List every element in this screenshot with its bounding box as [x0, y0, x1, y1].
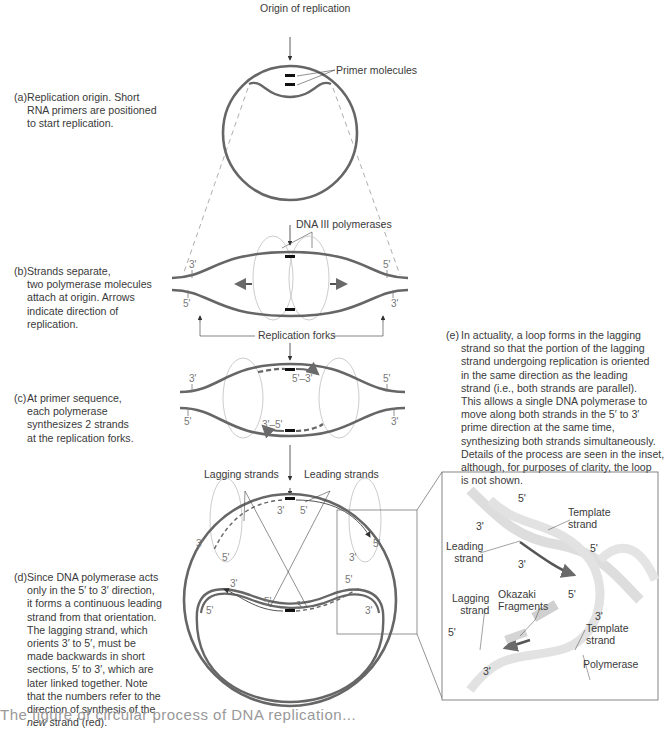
inset-label: 5' [568, 588, 576, 600]
caption-e: (e) In actuality, a loop forms in the la… [446, 329, 666, 487]
strand-end-label: 3' [296, 600, 303, 611]
template-strand-label: Template strand [586, 622, 629, 646]
strand-end-label: 3' [189, 259, 196, 270]
inset-label: 3' [518, 558, 526, 570]
inset-label: 5' [448, 626, 456, 638]
stage-b-strands [172, 225, 408, 336]
strand-end-label: 5' [383, 259, 390, 270]
strand-end-label: 5' [206, 605, 213, 616]
caption-e-label: (e) [446, 329, 459, 342]
strand-end-label: 3' [391, 298, 398, 309]
inset-label: 3' [595, 610, 603, 622]
primer-molecules-label: Primer molecules [336, 64, 417, 76]
replication-forks-label: Replication forks [258, 329, 336, 341]
leading-strands-label: Leading strands [304, 468, 379, 480]
lagging-strand-label: Lagging strand [452, 592, 489, 616]
caption-b: (b) Strands separate, two polymerase mol… [14, 265, 184, 331]
synthesis-direction-label: 5'–3' [292, 373, 313, 384]
caption-e-text: In actuality, a loop forms in the laggin… [461, 329, 666, 487]
dna-polymerases-label: DNA III polymerases [296, 218, 392, 230]
strand-end-label: 3' [230, 578, 237, 589]
strand-end-label: 3' [196, 538, 203, 549]
caption-d-label: (d) [14, 571, 27, 584]
caption-a: (a) Replication origin. Short RNA primer… [14, 91, 184, 131]
cut-off-caption: The figure of circular process of DNA re… [0, 706, 356, 723]
inset-label: 3' [483, 665, 491, 677]
strand-end-label: 3' [189, 373, 196, 384]
caption-b-label: (b) [14, 265, 27, 278]
strand-end-label: 5' [373, 538, 380, 549]
caption-c-label: (c) [14, 392, 26, 405]
inset-label: 5' [518, 492, 526, 504]
strand-end-label: 3' [277, 505, 284, 516]
leading-strand-label: Leading strand [446, 540, 483, 564]
strand-end-label: 5' [345, 574, 352, 585]
caption-b-text: Strands separate, two polymerase molecul… [27, 265, 184, 331]
strand-end-label: 5' [183, 298, 190, 309]
stage-c-strands [180, 343, 405, 480]
strand-end-label: 5' [264, 596, 271, 607]
strand-end-label: 3' [391, 416, 398, 427]
okazaki-fragments-label: Okazaki Fragments [498, 588, 548, 612]
stage-d-circle [184, 472, 442, 706]
strand-end-label: 5' [184, 416, 191, 427]
strand-end-label: 5' [222, 552, 229, 563]
synthesis-direction-label: 3'–5' [262, 419, 283, 430]
caption-a-label: (a) [14, 91, 27, 104]
strand-end-label: 3' [365, 605, 372, 616]
strand-end-label: 5' [300, 505, 307, 516]
caption-a-text: Replication origin. Short RNA primers ar… [27, 91, 184, 131]
origin-of-replication-label: Origin of replication [260, 2, 350, 14]
caption-c: (c) At primer sequence, each polymerase … [14, 392, 184, 445]
caption-c-text: At primer sequence, each polymerase synt… [27, 392, 184, 445]
lagging-strands-label: Lagging strands [204, 468, 279, 480]
template-strand-label: Template strand [568, 506, 611, 530]
polymerase-label: Polymerase [583, 658, 638, 670]
strand-end-label: 3' [349, 552, 356, 563]
inset-label: 5' [590, 542, 598, 554]
caption-d-main: Since DNA polymerase acts only in the 5′… [27, 571, 162, 715]
strand-end-label: 5' [383, 373, 390, 384]
inset-label: 3' [476, 520, 484, 532]
